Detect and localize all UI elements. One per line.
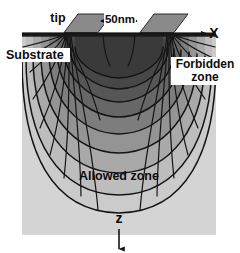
field-zone-diagram: X 50nm tip Substrate Forbidden zone Allo… — [0, 0, 240, 253]
substrate-label: Substrate — [6, 48, 64, 62]
figure-root: X 50nm tip Substrate Forbidden zone Allo… — [0, 0, 240, 253]
forbidden-zone-label-line2: zone — [191, 70, 219, 84]
scale-bar-label: 50nm — [105, 13, 135, 25]
allowed-zone-label: Allowed zone — [79, 169, 159, 183]
tip-label: tip — [50, 11, 66, 25]
z-axis-label: z — [116, 210, 123, 226]
x-axis-label: X — [209, 25, 219, 41]
tip-electrode-right — [140, 14, 188, 33]
forbidden-zone-label-line1: Forbidden — [176, 57, 235, 71]
